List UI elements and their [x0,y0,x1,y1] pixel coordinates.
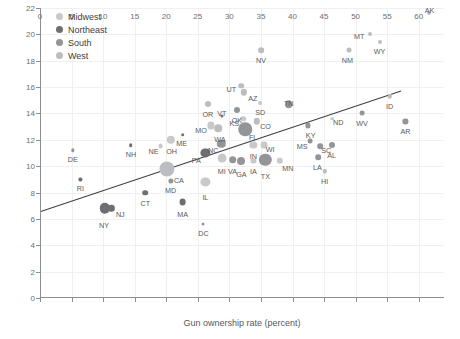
point-label-ct: CT [141,199,151,208]
y-tick-label-2: 2 [5,267,35,276]
y-tick-20 [36,34,40,35]
y-tick-label-16: 16 [5,83,35,92]
point-label-wy: WY [374,47,386,56]
x-tick-label-25: 25 [193,12,202,21]
point-label-wi: WI [266,145,275,154]
y-tick-6 [36,219,40,220]
bubble-sd [258,101,262,105]
point-label-ms: MS [297,142,308,151]
y-tick-label-12: 12 [5,135,35,144]
point-label-mt: MT [354,32,364,41]
bubble-ma [179,198,186,205]
legend-dot-icon [56,26,63,33]
x-tick-15 [135,298,136,302]
y-tick-label-8: 8 [5,188,35,197]
bubble-nh [129,143,133,147]
point-label-ks: KS [229,119,239,128]
bubble-mi [217,154,226,163]
x-tick-label-30: 30 [225,12,234,21]
bubble-ct [143,190,149,196]
x-tick-label-20: 20 [162,12,171,21]
y-tick-18 [36,61,40,62]
y-tick-22 [36,8,40,9]
bubble-mt [368,32,372,36]
x-tick-40 [293,298,294,302]
point-label-me: ME [176,139,187,148]
point-label-nj: NJ [116,210,125,219]
point-label-de: DE [68,155,78,164]
y-tick-label-0: 0 [5,294,35,303]
x-tick-45 [324,298,325,302]
y-tick-4 [36,245,40,246]
legend-item-northeast[interactable]: Northeast [56,23,107,36]
legend-item-midwest[interactable]: Midwest [56,10,107,23]
x-tick-60 [419,298,420,302]
bubble-ne [158,144,163,149]
point-label-ak: AK [425,6,435,15]
point-label-nc: NC [208,146,218,155]
point-label-sd: SD [255,108,265,117]
x-tick-label-55: 55 [383,12,392,21]
bubble-ut [239,83,245,89]
point-label-in: IN [250,152,257,161]
point-label-fl: FL [249,133,257,142]
x-tick-35 [261,298,262,302]
bubble-wa [214,124,222,132]
point-label-co: CO [260,122,271,131]
y-tick-label-6: 6 [5,214,35,223]
bubble-me [181,133,185,137]
point-label-la: LA [313,163,322,172]
x-axis-title: Gun ownership rate (percent) [40,318,444,328]
point-label-al: AL [327,151,336,160]
y-tick-14 [36,113,40,114]
x-tick-label-0: 0 [38,12,42,21]
point-label-ga: GA [236,170,246,179]
point-label-wv: WV [356,119,368,128]
legend-item-south[interactable]: South [56,36,107,49]
x-tick-label-60: 60 [414,12,423,21]
point-label-vt: VT [217,109,226,118]
point-label-ia: IA [250,167,257,176]
point-label-ca: CA [174,176,184,185]
legend-label: Midwest [68,12,101,22]
point-label-ny: NY [99,221,109,230]
legend-dot-icon [56,52,63,59]
y-tick-2 [36,272,40,273]
point-label-ne: NE [149,147,159,156]
y-tick-label-20: 20 [5,30,35,39]
bubble-wv [360,111,365,116]
x-tick-label-50: 50 [351,12,360,21]
point-label-ky: KY [306,131,316,140]
point-label-mi: MI [218,167,226,176]
bubble-nm [347,48,352,53]
point-label-dc: DC [198,229,208,238]
legend-dot-icon [56,39,63,46]
y-tick-label-14: 14 [5,109,35,118]
legend-label: Northeast [68,25,107,35]
bubble-nv [258,47,264,53]
bubble-va [229,156,237,164]
bubble-or [205,101,211,107]
y-tick-label-10: 10 [5,162,35,171]
bubble-dc [202,223,205,226]
y-tick-10 [36,166,40,167]
point-label-ar: AR [400,127,410,136]
x-tick-label-45: 45 [320,12,329,21]
bubble-ok [234,107,240,113]
x-tick-25 [198,298,199,302]
point-label-mo: MO [195,126,207,135]
y-axis-line [40,8,41,298]
x-axis-line [40,297,444,298]
y-tick-16 [36,87,40,88]
y-tick-8 [36,193,40,194]
legend: MidwestNortheastSouthWest [56,10,107,62]
point-label-az: AZ [248,94,257,103]
legend-label: South [68,38,92,48]
x-tick-label-15: 15 [130,12,139,21]
x-tick-label-40: 40 [288,12,297,21]
point-label-pa: PA [192,156,201,165]
y-tick-0 [36,298,40,299]
legend-item-west[interactable]: West [56,49,107,62]
x-tick-20 [166,298,167,302]
y-tick-label-4: 4 [5,241,35,250]
